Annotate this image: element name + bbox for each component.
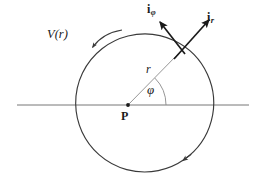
circle-path-upper <box>128 34 214 159</box>
unit-vector-iphi-arrow <box>160 22 185 54</box>
radius-label: r <box>146 63 151 75</box>
unit-vector-iphi-base: i <box>147 2 150 16</box>
unit-vector-iphi-subscript: φ <box>151 7 156 17</box>
polar-coordinate-diagram <box>0 0 262 191</box>
unit-vector-ir-subscript: r <box>211 15 214 25</box>
center-point-marker <box>126 103 130 107</box>
center-point-label: P <box>121 110 128 122</box>
unit-vector-iphi-label: iφ <box>147 3 156 17</box>
unit-vector-ir-arrow <box>174 20 209 59</box>
angle-label: φ <box>147 83 154 96</box>
velocity-label: V(r) <box>47 28 68 41</box>
radius-line <box>128 52 180 105</box>
circle-path-lower <box>76 36 185 172</box>
unit-vector-ir-base: i <box>207 10 210 24</box>
figure-canvas: V(r) r φ P iφ ir <box>0 0 262 191</box>
unit-vector-ir-label: ir <box>207 11 214 25</box>
circle-path-direction-arrow <box>185 154 192 159</box>
angle-arc <box>155 78 166 105</box>
